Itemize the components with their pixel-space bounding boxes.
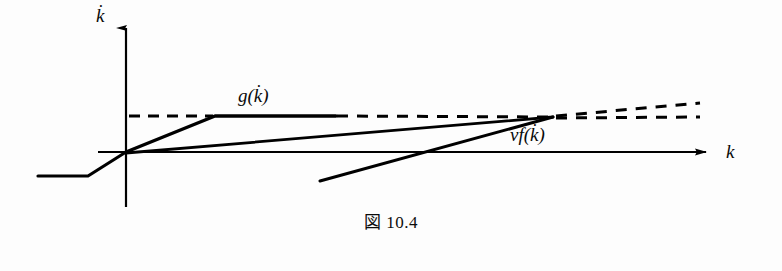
g-dashed-plateau-right <box>337 116 551 117</box>
curve-label-vf: vf(k̇) <box>510 125 545 144</box>
y-axis-label: k̇ <box>96 6 104 25</box>
lower-dashed-branch <box>556 117 700 118</box>
g-curve-left-segment <box>38 152 126 176</box>
g-curve-rise-plateau <box>126 116 336 152</box>
dashed-branch-group <box>556 103 700 118</box>
figure-caption: 図 10.4 <box>0 208 782 233</box>
figure-container: k̇ k g(k̇) vf(k̇) 図 10.4 <box>0 0 782 271</box>
curve-label-g: g(k̇) <box>238 86 269 105</box>
x-axis-label: k <box>726 142 734 161</box>
upper-dashed-branch <box>556 103 700 116</box>
